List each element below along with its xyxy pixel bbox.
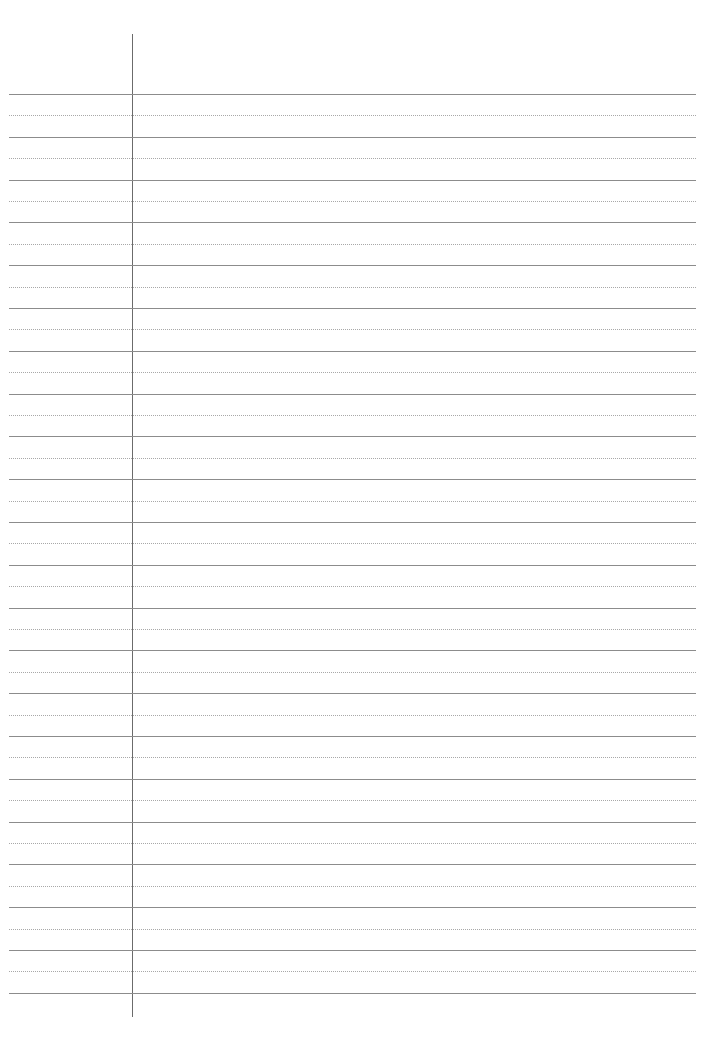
dotted-guide-line <box>9 715 696 716</box>
dotted-guide-line <box>9 971 696 972</box>
dotted-guide-line <box>9 629 696 630</box>
solid-rule-line <box>9 479 696 480</box>
dotted-guide-line <box>9 372 696 373</box>
vertical-margin-line <box>132 34 133 1017</box>
solid-rule-line <box>9 736 696 737</box>
solid-rule-line <box>9 993 696 994</box>
solid-rule-line <box>9 394 696 395</box>
lined-paper-sheet <box>0 0 716 1056</box>
dotted-guide-line <box>9 458 696 459</box>
solid-rule-line <box>9 950 696 951</box>
dotted-guide-line <box>9 757 696 758</box>
dotted-guide-line <box>9 800 696 801</box>
dotted-guide-line <box>9 843 696 844</box>
solid-rule-line <box>9 436 696 437</box>
solid-rule-line <box>9 180 696 181</box>
dotted-guide-line <box>9 415 696 416</box>
solid-rule-line <box>9 351 696 352</box>
solid-rule-line <box>9 779 696 780</box>
solid-rule-line <box>9 222 696 223</box>
dotted-guide-line <box>9 543 696 544</box>
dotted-guide-line <box>9 115 696 116</box>
dotted-guide-line <box>9 586 696 587</box>
solid-rule-line <box>9 137 696 138</box>
solid-rule-line <box>9 565 696 566</box>
solid-rule-line <box>9 265 696 266</box>
solid-rule-line <box>9 308 696 309</box>
solid-rule-line <box>9 650 696 651</box>
solid-rule-line <box>9 864 696 865</box>
dotted-guide-line <box>9 672 696 673</box>
dotted-guide-line <box>9 501 696 502</box>
dotted-guide-line <box>9 329 696 330</box>
dotted-guide-line <box>9 886 696 887</box>
solid-rule-line <box>9 822 696 823</box>
solid-rule-line <box>9 608 696 609</box>
solid-rule-line <box>9 693 696 694</box>
dotted-guide-line <box>9 201 696 202</box>
solid-rule-line <box>9 522 696 523</box>
solid-rule-line <box>9 907 696 908</box>
dotted-guide-line <box>9 287 696 288</box>
solid-rule-line <box>9 94 696 95</box>
dotted-guide-line <box>9 158 696 159</box>
dotted-guide-line <box>9 244 696 245</box>
dotted-guide-line <box>9 929 696 930</box>
